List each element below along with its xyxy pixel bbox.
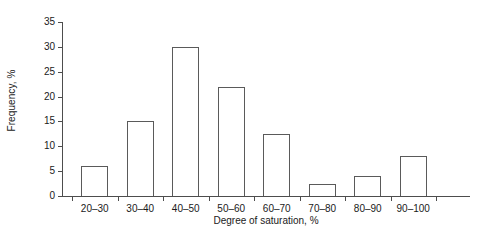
x-axis-tick-label: 90–100 xyxy=(397,204,430,214)
histogram-bar xyxy=(400,156,427,196)
x-axis-tick xyxy=(436,197,437,201)
x-axis-title: Degree of saturation, % xyxy=(62,215,470,226)
histogram-bar xyxy=(172,47,199,196)
x-axis-tick xyxy=(209,197,210,201)
plot-area: 05101520253035 20–3030–4040–5050–6060–70… xyxy=(62,22,470,197)
y-axis-tick xyxy=(58,47,62,48)
x-axis-tick xyxy=(345,197,346,201)
y-axis-tick xyxy=(58,121,62,122)
x-axis-tick xyxy=(163,197,164,201)
x-axis-title-text: Degree of saturation, % xyxy=(213,215,318,226)
histogram-bar xyxy=(127,121,154,196)
y-axis-tick-label: 35 xyxy=(44,17,55,27)
y-axis-tick-label: 10 xyxy=(44,141,55,151)
histogram-bar xyxy=(81,166,108,196)
x-axis-tick xyxy=(391,197,392,201)
histogram-bar xyxy=(354,176,381,196)
x-axis-tick-label: 50–60 xyxy=(217,204,245,214)
y-axis-tick-label: 20 xyxy=(44,92,55,102)
x-axis-tick xyxy=(118,197,119,201)
x-axis-tick-label: 70–80 xyxy=(308,204,336,214)
x-axis-line xyxy=(62,196,470,197)
histogram-bar xyxy=(309,184,336,196)
y-axis-title-text: Frequency, % xyxy=(6,69,17,131)
histogram-bar xyxy=(263,134,290,196)
y-axis-tick xyxy=(58,146,62,147)
y-axis-tick-label: 0 xyxy=(49,191,55,201)
x-axis-tick-label: 20–30 xyxy=(81,204,109,214)
y-axis-tick-label: 30 xyxy=(44,42,55,52)
x-axis-tick xyxy=(300,197,301,201)
x-axis-tick-label: 40–50 xyxy=(172,204,200,214)
y-axis-tick xyxy=(58,72,62,73)
y-axis-tick xyxy=(58,171,62,172)
histogram-bar xyxy=(218,87,245,196)
x-axis-tick-label: 30–40 xyxy=(126,204,154,214)
y-axis-tick-label: 25 xyxy=(44,67,55,77)
x-axis-tick-label: 80–90 xyxy=(354,204,382,214)
y-axis-tick xyxy=(58,97,62,98)
x-axis-tick-label: 60–70 xyxy=(263,204,291,214)
x-axis-tick xyxy=(72,197,73,201)
x-axis-tick xyxy=(254,197,255,201)
histogram-figure: Frequency, % 05101520253035 20–3030–4040… xyxy=(0,0,480,240)
y-axis-line xyxy=(62,22,63,197)
y-axis-tick xyxy=(58,196,62,197)
y-axis-tick-label: 5 xyxy=(49,166,55,176)
y-axis-title: Frequency, % xyxy=(0,0,22,200)
y-axis-tick xyxy=(58,22,62,23)
y-axis-tick-label: 15 xyxy=(44,116,55,126)
